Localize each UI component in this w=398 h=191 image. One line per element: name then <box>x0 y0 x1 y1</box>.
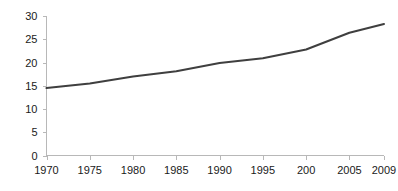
x-tick-label: 2009 <box>372 164 396 176</box>
x-tick-marks <box>48 156 385 160</box>
y-tick-labels: 051015202530 <box>25 10 37 162</box>
y-tick-label: 0 <box>31 150 37 162</box>
x-tick-label: 1980 <box>121 164 145 176</box>
x-tick-label: 1990 <box>207 164 231 176</box>
y-tick-label: 15 <box>25 80 37 92</box>
x-tick-label: 200 <box>297 164 315 176</box>
y-axis-group: 051015202530 <box>25 10 46 162</box>
x-axis-group: 19701975198019851990199520020052009 <box>34 156 396 176</box>
x-tick-label: 1995 <box>251 164 275 176</box>
y-tick-label: 30 <box>25 10 37 22</box>
x-tick-label: 1985 <box>164 164 188 176</box>
y-tick-label: 25 <box>25 33 37 45</box>
x-tick-label: 1970 <box>34 164 58 176</box>
plot-area <box>47 24 385 88</box>
line-chart: 051015202530 197019751980198519901995200… <box>0 0 398 191</box>
data-series-line <box>47 24 385 88</box>
y-tick-label: 10 <box>25 103 37 115</box>
y-tick-marks <box>43 17 47 157</box>
x-tick-labels: 19701975198019851990199520020052009 <box>34 164 396 176</box>
y-tick-label: 5 <box>31 126 37 138</box>
x-tick-label: 1975 <box>78 164 102 176</box>
x-tick-label: 2005 <box>337 164 361 176</box>
chart-canvas: 051015202530 197019751980198519901995200… <box>0 0 398 191</box>
y-tick-label: 20 <box>25 57 37 69</box>
